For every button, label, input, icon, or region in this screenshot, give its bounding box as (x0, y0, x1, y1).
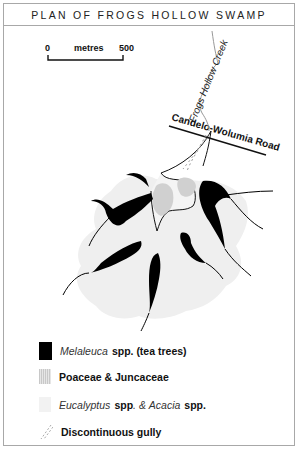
eucalyptus-genus: Eucalyptus (59, 399, 110, 411)
gully-label: Discontinuous gully (61, 426, 161, 438)
scale-start-label: 0 (45, 43, 50, 53)
acacia-genus: Acacia (149, 399, 181, 411)
melaleuca-swatch (39, 342, 52, 360)
poaceae-swatch (39, 369, 51, 384)
acacia-spp: spp. (184, 399, 206, 411)
gully-dashes (183, 134, 209, 171)
melaleuca-suffix: spp. (tea trees) (112, 345, 187, 357)
eucalyptus-spp: spp (114, 399, 133, 411)
legend-item-melaleuca: Melaleuca spp. (tea trees) (39, 342, 187, 360)
swamp-map: 0 metres 500 Candelo-Wolumia Road Frogs … (4, 26, 296, 336)
creek-label: Frogs Hollow Creek (187, 37, 230, 123)
title-bar: PLAN OF FROGS HOLLOW SWAMP (4, 4, 294, 26)
eucalyptus-swatch (39, 397, 51, 412)
poaceae-label: Poaceae & Juncaceae (59, 371, 169, 383)
eucalyptus-mid: . & (133, 399, 149, 411)
map-title: PLAN OF FROGS HOLLOW SWAMP (31, 9, 267, 21)
map-frame: PLAN OF FROGS HOLLOW SWAMP 0 metres 500 … (3, 3, 295, 446)
legend-item-gully: Discontinuous gully (39, 424, 161, 440)
gully-swatch (39, 424, 53, 440)
legend-item-poaceae: Poaceae & Juncaceae (39, 369, 169, 384)
scale-bar: 0 metres 500 (45, 43, 134, 60)
legend-item-eucalyptus: Eucalyptus spp . & Acacia spp. (39, 397, 206, 412)
scale-end-label: 500 (119, 43, 134, 53)
melaleuca-genus: Melaleuca (60, 345, 108, 357)
scale-unit-label: metres (74, 43, 104, 53)
